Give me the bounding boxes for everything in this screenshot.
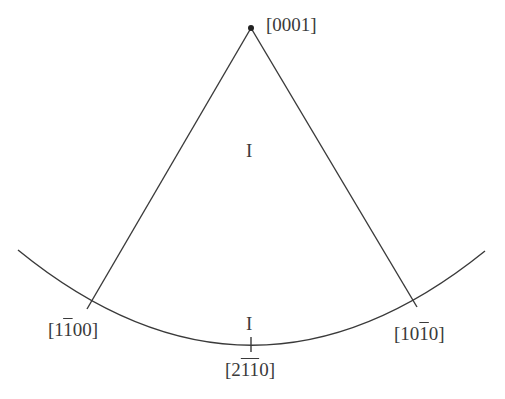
left-pole-label: [1100] <box>48 320 98 339</box>
left-edge-line <box>87 28 251 309</box>
bottom-region-label: I <box>246 314 252 333</box>
right-edge-line <box>251 28 417 307</box>
right-pole-label: [1010] <box>394 324 445 343</box>
apex-pole-dot <box>248 25 254 31</box>
bottom-pole-label: [2110] <box>225 360 275 379</box>
apex-pole-label: [0001] <box>266 15 317 34</box>
center-region-label: I <box>246 141 252 160</box>
